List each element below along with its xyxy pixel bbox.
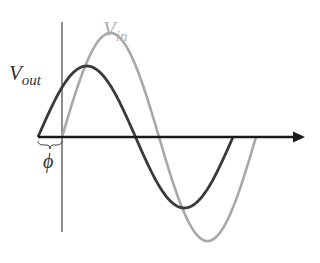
arrow-head-icon xyxy=(293,132,305,143)
phase-shift-diagram: Vin Vout ϕ xyxy=(0,0,320,263)
phase-label: ϕ xyxy=(43,150,53,173)
vout-label: Vout xyxy=(9,61,42,88)
phase-brace xyxy=(38,141,62,149)
vin-label: Vin xyxy=(103,17,128,44)
